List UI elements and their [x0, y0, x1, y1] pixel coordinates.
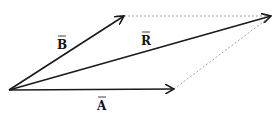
vector-b-arrow [9, 16, 124, 90]
vector-diagram: B R A [0, 0, 280, 116]
label-a: A [96, 97, 107, 113]
label-a-text: A [96, 99, 107, 113]
label-b: B [57, 36, 67, 52]
vector-a-arrow [9, 89, 174, 90]
label-r: R [141, 32, 152, 48]
dashed-line-a-to-r [174, 16, 271, 89]
label-b-text: B [57, 38, 67, 52]
vector-r-arrow [9, 16, 271, 90]
label-r-text: R [141, 34, 152, 48]
